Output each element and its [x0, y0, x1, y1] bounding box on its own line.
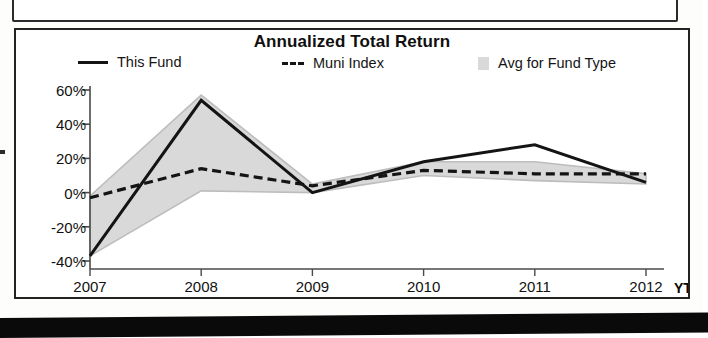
plot-area: 60%40%20%0%-20%-40% 20072008200920102011… [16, 30, 690, 297]
left-edge-sliver [0, 150, 5, 154]
x-axis-tick-label: 2010 [407, 278, 440, 295]
bottom-scan-band [0, 312, 708, 338]
annualized-total-return-chart-panel: Annualized Total Return This Fund Muni I… [14, 28, 690, 299]
x-axis-ytd-label: YTD [674, 280, 690, 296]
x-axis-tick-label: 2011 [519, 278, 551, 295]
panel-above-chart [12, 0, 678, 22]
x-axis-tick-label: 2008 [185, 278, 218, 295]
x-axis-tick-label: 2009 [296, 278, 329, 295]
x-axis-tick-label: 2007 [73, 278, 106, 295]
x-axis-tick-labels: 200720082009201020112012YTD [16, 30, 690, 297]
x-axis-tick-label: 2012 [629, 278, 662, 295]
